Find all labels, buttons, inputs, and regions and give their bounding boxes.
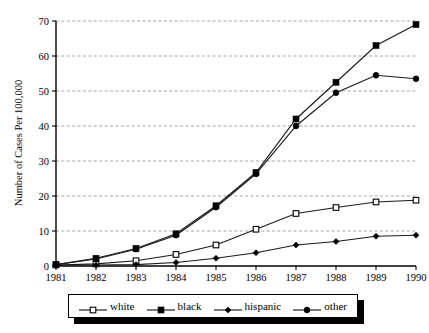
data-marker-filled-circle (253, 171, 259, 177)
legend-marker-filled-circle-icon (293, 301, 321, 311)
y-tick-label: 0 (44, 261, 49, 272)
legend-label: black (178, 301, 202, 312)
data-marker-filled-circle (293, 123, 299, 129)
data-marker-filled-diamond (333, 239, 339, 245)
x-tick-label: 1990 (406, 272, 427, 283)
series-white (53, 197, 419, 267)
data-marker-open-square (173, 252, 179, 258)
legend-item-other[interactable]: other (293, 301, 347, 312)
x-tick-label: 1989 (366, 272, 387, 283)
data-marker-open-square (213, 242, 219, 248)
x-tick-label: 1988 (326, 272, 347, 283)
data-marker-filled-diamond (173, 260, 179, 266)
data-marker-filled-diamond (413, 232, 419, 238)
x-tick-label: 1985 (206, 272, 227, 283)
data-marker-filled-square (413, 22, 419, 28)
data-marker-filled-diamond (213, 255, 219, 261)
data-marker-filled-circle (93, 256, 99, 262)
data-marker-filled-diamond (225, 307, 231, 313)
legend-label: other (324, 301, 347, 312)
y-tick-label: 20 (39, 191, 50, 202)
x-tick-label: 1986 (246, 272, 267, 283)
x-tick-label: 1987 (286, 272, 307, 283)
data-marker-filled-circle (213, 204, 219, 210)
y-tick-label: 70 (39, 16, 50, 27)
legend-marker-filled-diamond-icon (214, 301, 242, 311)
data-marker-open-square (90, 307, 96, 313)
data-marker-filled-square (158, 307, 164, 313)
x-axis-tick-labels: 1981198219831984198519861987198819891990 (46, 272, 427, 283)
data-marker-filled-diamond (293, 242, 299, 248)
chart-legend: white black hispanic other (68, 294, 358, 318)
grid-lines (56, 21, 416, 231)
line-chart-figure: 010203040506070 198119821983198419851986… (0, 0, 429, 333)
data-marker-filled-circle (304, 307, 310, 313)
y-axis-title: Number of Cases Per 100,000 (13, 80, 24, 206)
legend-label: white (110, 301, 134, 312)
data-marker-open-square (253, 226, 259, 232)
series-line (56, 25, 416, 265)
y-tick-label: 60 (39, 51, 50, 62)
data-marker-filled-circle (53, 262, 59, 268)
legend-item-white[interactable]: white (79, 301, 134, 312)
legend-label: hispanic (245, 301, 282, 312)
chart-plot-area: 010203040506070 198119821983198419851986… (0, 0, 429, 333)
y-tick-label: 50 (39, 86, 50, 97)
data-marker-open-square (413, 197, 419, 203)
data-marker-open-square (373, 199, 379, 205)
data-marker-filled-square (373, 43, 379, 49)
data-marker-filled-circle (133, 246, 139, 252)
data-marker-filled-diamond (373, 233, 379, 239)
legend-marker-open-square-icon (79, 301, 107, 311)
legend-item-hispanic[interactable]: hispanic (214, 301, 282, 312)
series-line (56, 75, 416, 264)
data-marker-filled-circle (333, 90, 339, 96)
y-tick-label: 30 (39, 156, 50, 167)
y-tick-label: 40 (39, 121, 50, 132)
legend-item-black[interactable]: black (147, 301, 202, 312)
data-marker-filled-circle (413, 76, 419, 82)
data-marker-open-square (333, 205, 339, 211)
data-marker-filled-square (293, 116, 299, 122)
data-marker-filled-square (333, 79, 339, 85)
y-tick-label: 10 (39, 226, 50, 237)
data-marker-open-square (293, 211, 299, 217)
data-marker-filled-circle (173, 232, 179, 238)
series-line (56, 235, 416, 265)
y-axis-tick-labels: 010203040506070 (39, 16, 50, 272)
x-tick-label: 1984 (166, 272, 188, 283)
x-tick-label: 1983 (126, 272, 147, 283)
data-marker-filled-circle (373, 72, 379, 78)
data-marker-filled-diamond (253, 250, 259, 256)
x-tick-label: 1981 (46, 272, 67, 283)
x-tick-label: 1982 (86, 272, 107, 283)
legend-marker-filled-square-icon (147, 301, 175, 311)
